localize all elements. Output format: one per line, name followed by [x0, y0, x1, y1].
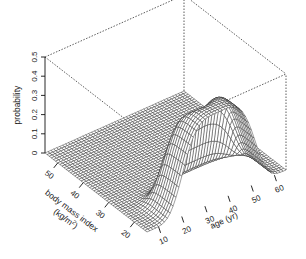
z-tick-label: 0.5	[30, 51, 39, 63]
z-tick-label: 0.4	[30, 70, 39, 82]
z-tick-label: 0	[30, 150, 39, 155]
x-tick-label: 60	[274, 183, 286, 195]
y-tick-label: 30	[94, 208, 107, 221]
z-tick-label: 0.1	[30, 128, 39, 140]
surface-plot: 00.10.20.30.40.510203040506020304050 pro…	[0, 0, 306, 259]
y-tick-label: 50	[43, 169, 56, 182]
x-tick-label: 50	[250, 193, 262, 205]
x-tick-label: 20	[181, 224, 193, 236]
x-axis-label: age (yr)	[208, 210, 239, 231]
z-axis-label: probability	[12, 85, 22, 124]
x-tick-label: 10	[158, 234, 170, 246]
y-tick-label: 40	[68, 188, 81, 201]
y-tick-label: 20	[119, 228, 132, 241]
z-tick-label: 0.2	[30, 108, 39, 120]
z-tick-label: 0.3	[30, 89, 39, 101]
